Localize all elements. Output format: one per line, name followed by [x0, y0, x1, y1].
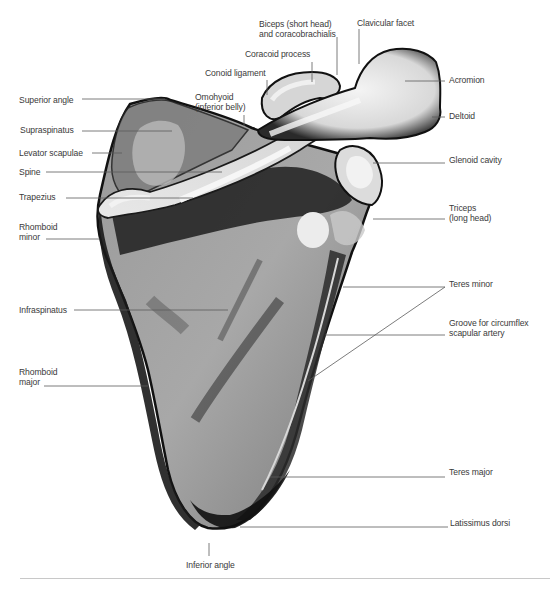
scapula-bone — [98, 49, 441, 530]
label-clavicular-facet: Clavicular facet — [357, 18, 414, 28]
label-teres-major: Teres major — [449, 467, 493, 477]
label-superior-angle: Superior angle — [19, 95, 74, 105]
label-coracoid-process: Coracoid process — [245, 49, 310, 59]
label-rhomboid-minor: Rhomboid minor — [19, 222, 57, 242]
label-spine: Spine — [19, 167, 40, 177]
bottom-rule — [20, 578, 550, 579]
label-groove-circumflex: Groove for circumflex scapular artery — [449, 318, 529, 338]
label-inferior-angle: Inferior angle — [186, 560, 235, 570]
scapula-figure — [0, 0, 550, 590]
label-biceps-coracobrachialis: Biceps (short head) and coracobrachialis — [259, 19, 336, 39]
label-teres-minor: Teres minor — [449, 279, 493, 289]
label-glenoid-cavity: Glenoid cavity — [449, 155, 502, 165]
label-trapezius: Trapezius — [19, 192, 56, 202]
label-acromion: Acromion — [449, 75, 485, 85]
label-supraspinatus: Supraspinatus — [20, 125, 74, 135]
label-rhomboid-major: Rhomboid major — [19, 367, 57, 387]
label-omohyoid: Omohyoid (inferior belly) — [195, 92, 245, 112]
label-infraspinatus: Infraspinatus — [19, 305, 67, 315]
label-triceps: Triceps (long head) — [449, 203, 491, 223]
label-deltoid: Deltoid — [449, 111, 475, 121]
label-conoid-ligament: Conoid ligament — [205, 68, 266, 78]
label-latissimus-dorsi: Latissimus dorsi — [450, 518, 510, 528]
label-levator-scapulae: Levator scapulae — [19, 148, 83, 158]
